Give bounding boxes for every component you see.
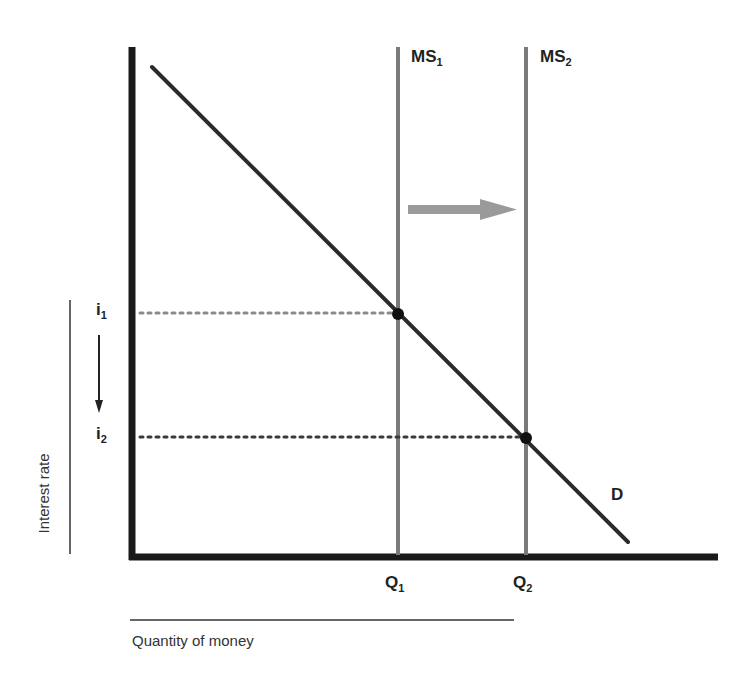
ms2-label: MS2	[540, 47, 572, 68]
i2-label: i2	[96, 424, 107, 445]
x-axis-title: Quantity of money	[132, 632, 254, 649]
ms1-label: MS1	[411, 47, 443, 68]
q2-label: Q2	[513, 573, 532, 594]
shift-arrow-icon	[408, 199, 517, 220]
demand-label: D	[611, 485, 623, 505]
equilibrium-point-1	[392, 308, 404, 320]
chart-canvas	[0, 0, 750, 684]
i1-label: i1	[96, 300, 107, 321]
demand-line	[152, 67, 628, 542]
q1-label: Q1	[385, 573, 404, 594]
y-axis-title: Interest rate	[35, 444, 52, 534]
equilibrium-point-2	[520, 432, 532, 444]
down-arrow-icon	[95, 335, 103, 413]
